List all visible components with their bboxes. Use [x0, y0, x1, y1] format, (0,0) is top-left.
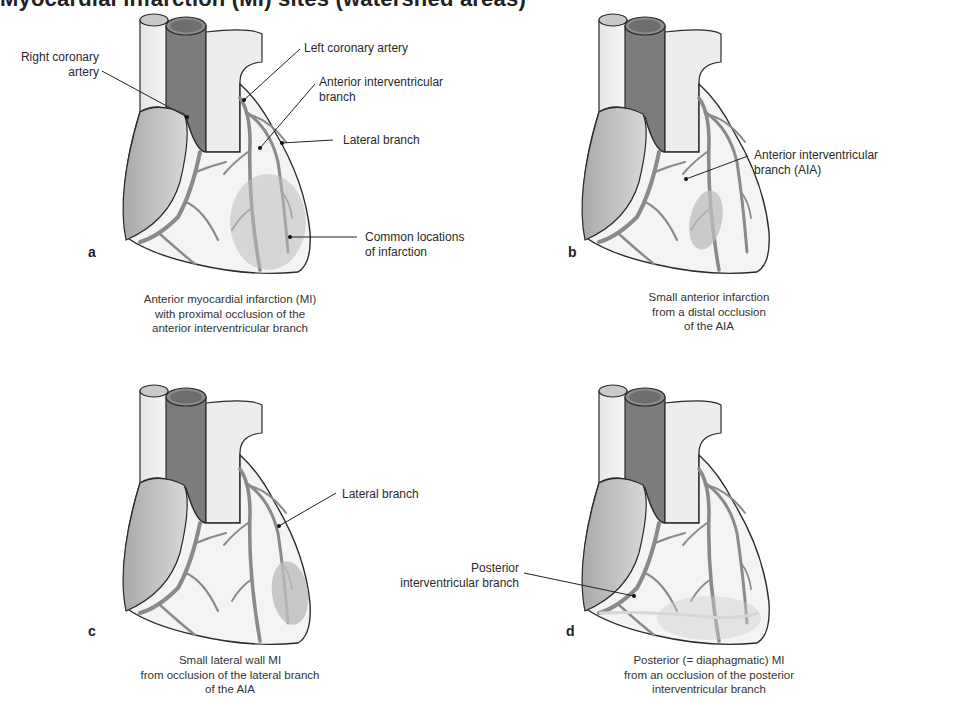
label-line: Right coronary [6, 50, 99, 65]
panel-letter-c: c [88, 623, 96, 639]
panel-letter-b: b [568, 244, 577, 260]
caption-line: interventricular branch [579, 682, 839, 697]
caption-a: Anterior myocardial infarction (MI) with… [100, 292, 360, 336]
caption-line: Small anterior infarction [579, 290, 839, 305]
label-line: Anterior interventricular [754, 148, 878, 163]
panel-a: Right coronary artery Left coronary arte… [0, 0, 479, 350]
label-posterior-interventricular-branch: Posterior interventricular branch [399, 561, 519, 591]
caption-line: of the AIA [100, 682, 360, 697]
label-common-locations-of-infarction: Common locations of infarction [365, 230, 464, 260]
label-lateral-branch: Lateral branch [343, 133, 420, 148]
caption-line: from a distal occlusion [579, 305, 839, 320]
caption-b: Small anterior infarction from a distal … [579, 290, 839, 334]
label-right-coronary-artery: Right coronary artery [6, 50, 99, 80]
caption-line: Small lateral wall MI [100, 653, 360, 668]
panel-d: Posterior interventricular branch d Post… [479, 353, 958, 703]
heart-illustration-c [100, 373, 340, 653]
label-anterior-interventricular-branch-aia: Anterior interventricular branch (AIA) [754, 148, 878, 178]
label-line: branch [319, 90, 443, 105]
label-lateral-branch-c: Lateral branch [342, 487, 419, 502]
label-anterior-interventricular-branch: Anterior interventricular branch [319, 75, 443, 105]
caption-line: with proximal occlusion of the [100, 307, 360, 322]
caption-c: Small lateral wall MI from occlusion of … [100, 653, 360, 697]
caption-line: Anterior myocardial infarction (MI) [100, 292, 360, 307]
caption-line: from an occlusion of the posterior [579, 668, 839, 683]
heart-illustration-b [559, 2, 799, 282]
panel-b: Anterior interventricular branch (AIA) b… [479, 0, 958, 350]
panel-letter-a: a [88, 244, 96, 260]
caption-d: Posterior (= diaphagmatic) MI from an oc… [579, 653, 839, 697]
caption-line: anterior interventricular branch [100, 321, 360, 336]
label-line: of infarction [365, 245, 464, 260]
caption-line: Posterior (= diaphagmatic) MI [579, 653, 839, 668]
caption-line: of the AIA [579, 319, 839, 334]
label-line: interventricular branch [399, 576, 519, 591]
caption-line: from occlusion of the lateral branch [100, 668, 360, 683]
heart-illustration-d [559, 373, 799, 653]
label-left-coronary-artery: Left coronary artery [304, 41, 408, 56]
label-line: artery [6, 65, 99, 80]
label-line: Anterior interventricular [319, 75, 443, 90]
panel-letter-d: d [566, 623, 575, 639]
label-line: Posterior [399, 561, 519, 576]
label-line: branch (AIA) [754, 163, 878, 178]
label-line: Common locations [365, 230, 464, 245]
panel-c: Lateral branch c Small lateral wall MI f… [0, 353, 479, 703]
